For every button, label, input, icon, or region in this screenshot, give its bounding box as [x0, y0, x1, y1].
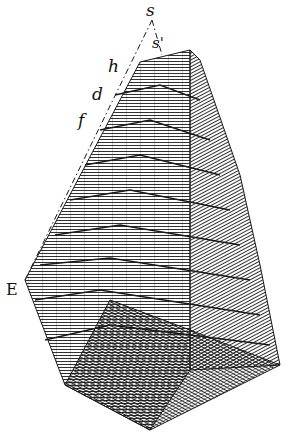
label-d: d [92, 86, 103, 103]
stepped-pyramid-drawing [0, 0, 291, 441]
label-E: E [6, 282, 18, 298]
label-f: f [78, 112, 84, 129]
right-face [190, 50, 280, 370]
label-h: h [108, 58, 119, 75]
label-s: s [146, 2, 155, 19]
label-s-prime: s' [152, 36, 164, 51]
